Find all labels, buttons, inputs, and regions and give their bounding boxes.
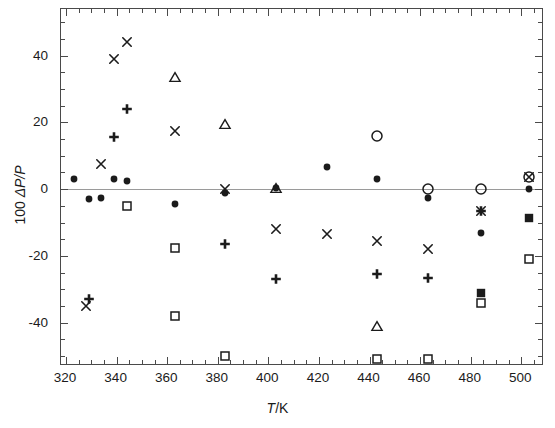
y-tick-label: 20 (0, 114, 48, 129)
data-point-open-square (169, 242, 181, 254)
plot-area (60, 8, 543, 365)
data-point-cross (121, 36, 133, 48)
data-point-filled-circle (322, 163, 331, 172)
data-point-cross (371, 235, 383, 247)
data-point-open-square (523, 253, 535, 265)
data-point-filled-circle (122, 176, 131, 185)
data-point-open-triangle (371, 320, 384, 332)
x-tick-label: 440 (357, 370, 380, 385)
x-axis-title-symbol: T (267, 400, 276, 416)
y-axis-title: 100 ΔP/P (12, 135, 28, 255)
data-point-filled-circle (170, 200, 179, 209)
data-point-cross (80, 300, 92, 312)
data-point-open-circle (371, 129, 384, 142)
data-point-plus (220, 239, 231, 250)
data-point-cross (169, 125, 181, 137)
y-tick-label: 40 (0, 47, 48, 62)
data-point-filled-circle (476, 228, 485, 237)
zero-reference-line (61, 189, 542, 190)
data-point-cross (523, 171, 535, 183)
data-point-plus (109, 132, 120, 143)
data-point-open-square (475, 297, 487, 309)
data-point-filled-circle (423, 193, 432, 202)
data-point-plus (372, 269, 383, 280)
scatter-chart-figure: 320340360380400420440460480500 40200-20-… (0, 0, 555, 428)
data-point-cross (475, 205, 487, 217)
data-point-open-triangle (269, 182, 282, 194)
data-point-filled-circle (373, 175, 382, 184)
data-point-filled-circle (110, 175, 119, 184)
data-point-plus (83, 294, 94, 305)
x-tick-label: 320 (54, 370, 77, 385)
y-tick-label: -40 (0, 314, 48, 329)
data-point-cross (108, 53, 120, 65)
y-axis-title-factor: 100 (12, 197, 28, 224)
x-tick-label: 420 (307, 370, 330, 385)
data-point-filled-circle (271, 183, 280, 192)
data-point-cross (321, 228, 333, 240)
data-point-open-circle (522, 171, 535, 184)
data-point-open-square (121, 200, 133, 212)
data-point-plus (475, 205, 486, 216)
data-point-filled-square (523, 212, 534, 223)
x-tick-label: 460 (408, 370, 431, 385)
data-point-cross (422, 243, 434, 255)
data-point-open-triangle (219, 118, 232, 130)
data-point-open-square (169, 310, 181, 322)
data-point-filled-square (475, 287, 486, 298)
x-axis-title: T/K (0, 400, 555, 416)
x-tick-label: 340 (104, 370, 127, 385)
data-point-filled-circle (84, 195, 93, 204)
data-point-filled-circle (69, 175, 78, 184)
data-point-cross (95, 158, 107, 170)
x-tick-label: 380 (206, 370, 229, 385)
y-axis-title-symbol: ΔP/P (12, 165, 28, 197)
data-point-cross (270, 223, 282, 235)
x-axis-title-unit: /K (275, 400, 288, 416)
data-point-filled-circle (97, 193, 106, 202)
data-point-open-triangle (168, 71, 181, 83)
x-tick-label: 400 (256, 370, 279, 385)
data-point-plus (270, 274, 281, 285)
x-tick-label: 500 (509, 370, 532, 385)
x-tick-label: 360 (155, 370, 178, 385)
x-tick-label: 480 (458, 370, 481, 385)
data-point-plus (422, 272, 433, 283)
data-point-plus (121, 104, 132, 115)
